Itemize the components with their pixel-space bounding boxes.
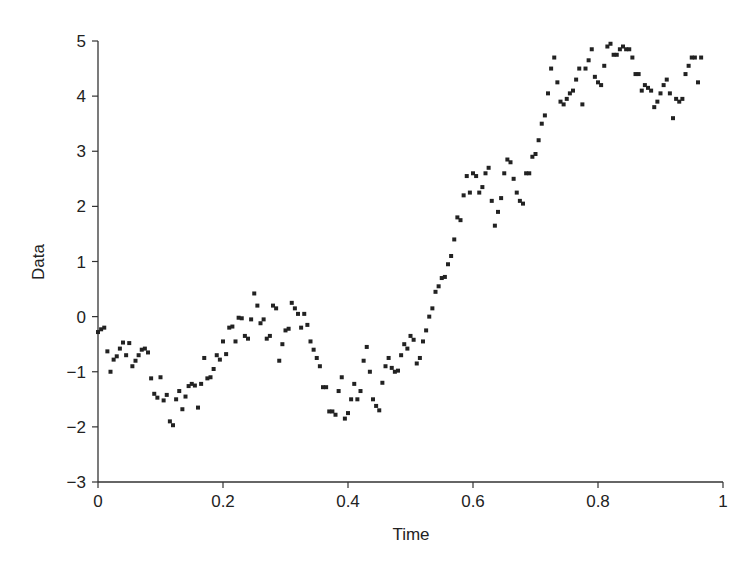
data-point (402, 342, 406, 346)
data-point (693, 56, 697, 60)
data-point (346, 411, 350, 415)
data-point (671, 116, 675, 120)
data-point (137, 353, 141, 357)
data-point (421, 339, 425, 343)
data-point (146, 350, 150, 354)
data-point (249, 317, 253, 321)
data-point (349, 397, 353, 401)
data-point (390, 366, 394, 370)
data-point (571, 89, 575, 93)
data-point (527, 171, 531, 175)
data-point (555, 80, 559, 84)
data-point (352, 382, 356, 386)
data-point (193, 384, 197, 388)
data-point (159, 375, 163, 379)
data-point (318, 364, 322, 368)
data-point (343, 417, 347, 421)
axes: −3−2−101234500.20.40.60.81 (67, 32, 728, 511)
data-point (143, 347, 147, 351)
data-point (315, 356, 319, 360)
data-point (259, 321, 263, 325)
x-axis-label: Time (392, 525, 429, 544)
data-point (334, 413, 338, 417)
data-point (299, 326, 303, 330)
data-point (240, 316, 244, 320)
y-tick-label: 2 (77, 197, 86, 216)
data-point (537, 138, 541, 142)
data-point (493, 224, 497, 228)
data-point (515, 191, 519, 195)
data-point (277, 359, 281, 363)
data-point (484, 171, 488, 175)
data-point (280, 342, 284, 346)
data-point (540, 122, 544, 126)
data-point (324, 385, 328, 389)
data-point (480, 185, 484, 189)
data-point (668, 91, 672, 95)
data-point (477, 191, 481, 195)
y-tick-label: 1 (77, 253, 86, 272)
data-point (290, 301, 294, 305)
data-point (152, 392, 156, 396)
data-point (534, 152, 538, 156)
data-point (512, 177, 516, 181)
data-point (180, 407, 184, 411)
x-tick-label: 0.4 (336, 492, 360, 511)
data-point (437, 284, 441, 288)
data-point (371, 397, 375, 401)
y-tick-label: −1 (67, 363, 86, 382)
data-point (543, 113, 547, 117)
data-point (374, 404, 378, 408)
data-point (221, 339, 225, 343)
data-point (659, 91, 663, 95)
data-point (365, 345, 369, 349)
data-point (212, 367, 216, 371)
data-point (418, 356, 422, 360)
data-point (287, 327, 291, 331)
data-point (562, 102, 566, 106)
data-point (412, 338, 416, 342)
data-point (609, 42, 613, 46)
data-point (255, 304, 259, 308)
data-point (149, 376, 153, 380)
data-point (262, 317, 266, 321)
data-point (434, 290, 438, 294)
y-tick-label: 0 (77, 308, 86, 327)
data-point (177, 389, 181, 393)
data-point (293, 306, 297, 310)
data-point (252, 291, 256, 295)
data-point (696, 80, 700, 84)
x-tick-label: 0.6 (461, 492, 485, 511)
data-point (305, 323, 309, 327)
data-point (602, 64, 606, 68)
data-point (409, 334, 413, 338)
data-point (496, 210, 500, 214)
data-point (309, 339, 313, 343)
data-point (462, 193, 466, 197)
data-point (312, 348, 316, 352)
data-point (184, 395, 188, 399)
data-point (443, 275, 447, 279)
data-point (218, 358, 222, 362)
data-point (552, 56, 556, 60)
data-point (580, 102, 584, 106)
data-point (196, 406, 200, 410)
data-point (121, 341, 125, 345)
data-point (640, 89, 644, 93)
data-point (174, 397, 178, 401)
data-point (521, 202, 525, 206)
y-tick-label: 4 (77, 87, 86, 106)
data-point (268, 334, 272, 338)
data-point (296, 312, 300, 316)
data-point (499, 196, 503, 200)
data-point (652, 105, 656, 109)
data-point (665, 78, 669, 82)
x-tick-label: 0 (93, 492, 102, 511)
data-point (230, 325, 234, 329)
data-point (590, 47, 594, 51)
data-point (415, 361, 419, 365)
data-point (587, 58, 591, 62)
data-point (509, 160, 513, 164)
data-point (655, 100, 659, 104)
data-point (474, 174, 478, 178)
